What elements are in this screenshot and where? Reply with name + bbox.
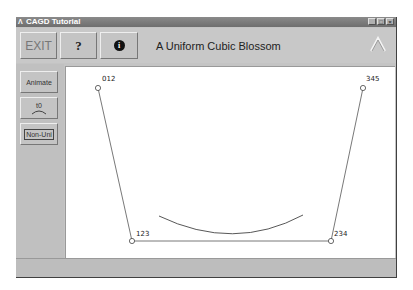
info-button[interactable]: i: [100, 32, 138, 59]
title-bar[interactable]: Λ CAGD Tutorial _ □ ×: [16, 17, 396, 27]
control-point-012[interactable]: 012: [95, 75, 115, 91]
t0-label: t0: [36, 102, 42, 109]
page-title: A Uniform Cubic Blossom: [156, 40, 281, 52]
status-bar: [16, 258, 396, 277]
help-button[interactable]: ?: [60, 32, 97, 59]
point-label: 123: [136, 230, 149, 238]
exit-button[interactable]: EXIT: [20, 32, 57, 59]
animate-label: Animate: [26, 79, 52, 86]
toolbar: EXIT ? i A Uniform Cubic Blossom: [16, 28, 396, 63]
point-label: 345: [366, 75, 379, 83]
non-uniform-label: Non-Uni: [24, 129, 54, 140]
control-point-123[interactable]: 123: [129, 230, 149, 244]
control-point-345[interactable]: 345: [360, 75, 379, 91]
close-button[interactable]: ×: [386, 18, 394, 25]
non-uniform-button[interactable]: Non-Uni: [20, 123, 58, 145]
drawing-canvas[interactable]: 012 123 234 345: [65, 66, 395, 258]
caret-logo-icon: [370, 36, 386, 56]
t0-button[interactable]: t0: [20, 97, 58, 119]
window-controls: _ □ ×: [368, 18, 394, 25]
arc-icon: [31, 109, 47, 115]
animate-button[interactable]: Animate: [20, 71, 58, 93]
blossom-curve: [159, 215, 303, 234]
side-panel: Animate t0 Non-Uni: [16, 64, 64, 258]
maximize-button[interactable]: □: [377, 18, 385, 25]
app-caret-icon: Λ: [18, 17, 23, 27]
point-label: 012: [102, 75, 115, 83]
info-icon: i: [114, 40, 125, 51]
app-window: Λ CAGD Tutorial _ □ × EXIT ? i A Uniform…: [16, 17, 397, 278]
window-title: CAGD Tutorial: [26, 17, 81, 27]
control-polygon: [98, 88, 363, 241]
minimize-button[interactable]: _: [368, 18, 376, 25]
control-point-234[interactable]: 234: [328, 230, 348, 244]
blossom-plot: 012 123 234 345: [66, 67, 396, 259]
point-label: 234: [334, 230, 348, 238]
